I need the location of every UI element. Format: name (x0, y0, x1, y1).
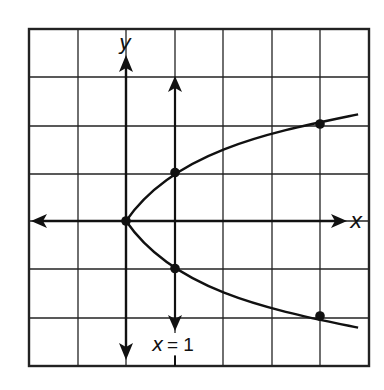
point-1-neg1 (170, 264, 180, 274)
point-4-neg2 (315, 311, 325, 321)
y-axis-label: y (118, 31, 132, 55)
point-4-2 (315, 119, 325, 129)
parabola-graph: y x x = 1 (0, 0, 384, 390)
point-1-1 (170, 168, 180, 178)
line-label-value: = 1 (167, 334, 194, 355)
y-axis (119, 55, 133, 360)
line-label-variable: x (151, 333, 164, 355)
point-origin (121, 216, 131, 226)
x-axis-label: x (349, 209, 363, 233)
